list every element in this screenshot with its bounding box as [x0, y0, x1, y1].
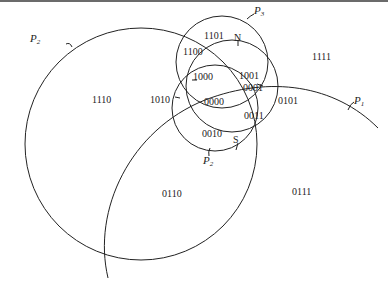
arc-p1	[104, 87, 378, 278]
tick-p3	[247, 14, 254, 19]
large-circle-p2	[25, 28, 257, 260]
region-0101: 0101	[278, 95, 298, 106]
region-0001: 0001	[243, 82, 263, 93]
tick-1010	[175, 97, 180, 98]
region-1111: 1111	[312, 51, 331, 62]
region-1010: 1010	[150, 94, 170, 105]
label-p2-small: P2	[202, 154, 214, 168]
region-0010: 0010	[202, 128, 222, 139]
tick-p2-large	[66, 43, 72, 47]
label-p2-large: P2	[29, 32, 41, 46]
label-p3: P3	[253, 4, 265, 18]
region-1100: 1100	[183, 46, 203, 57]
marker-n: N	[234, 32, 241, 43]
region-1110: 1110	[92, 94, 111, 105]
region-0000: 0000	[204, 96, 224, 107]
region-1001: 1001	[239, 70, 259, 81]
region-0111: 0111	[292, 186, 311, 197]
region-1101: 1101	[204, 30, 224, 41]
label-p1: P1	[353, 94, 364, 108]
venn-diagram: P2 P3 P1 P2 N S 1101 1100 1000 1001 0001…	[0, 0, 388, 294]
region-1000: 1000	[193, 71, 213, 82]
marker-s: S	[233, 134, 239, 145]
region-0110: 0110	[162, 188, 182, 199]
region-0011: 0011	[244, 110, 264, 121]
